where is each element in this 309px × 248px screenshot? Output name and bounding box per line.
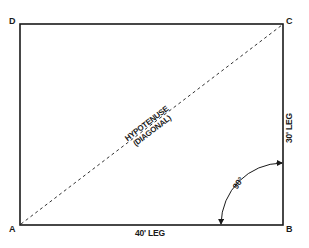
- vertex-d-label: D: [9, 16, 16, 26]
- right-triangle-diagram: HYPOTENUSE (DIAGONAL) D C A B 40' LEG 30…: [0, 0, 309, 248]
- vertex-b-label: B: [286, 224, 293, 234]
- right-angle-arc: [221, 163, 282, 224]
- bottom-leg-label: 40' LEG: [135, 228, 165, 238]
- vertex-c-label: C: [286, 16, 293, 26]
- right-leg-label: 30' LEG: [284, 112, 294, 142]
- vertex-a-label: A: [9, 224, 16, 234]
